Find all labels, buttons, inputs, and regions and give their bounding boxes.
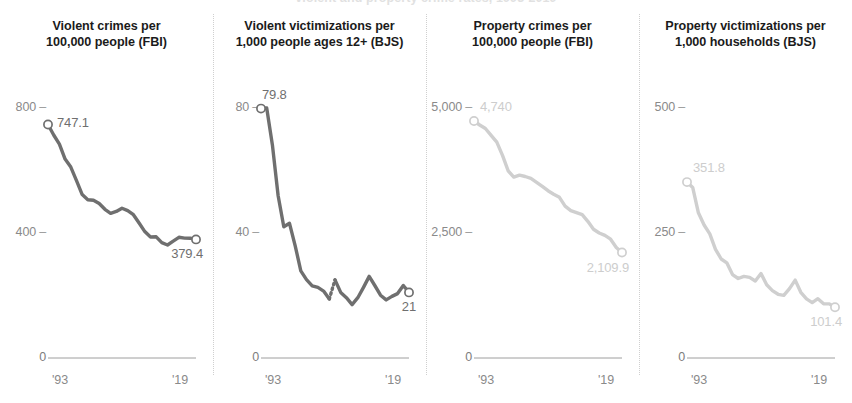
x-axis-tick-start: '93 — [478, 373, 494, 387]
start-point-marker — [44, 120, 52, 128]
series-line — [474, 121, 622, 253]
start-point-marker — [257, 105, 265, 113]
x-axis-tick-end: '19 — [172, 373, 188, 387]
series-line — [335, 276, 409, 304]
chart-panel-3: Property crimes per100,000 people (FBI)5… — [426, 0, 639, 403]
start-value-label: 747.1 — [57, 115, 89, 130]
chart-panel-2: Violent victimizations per1,000 people a… — [213, 0, 426, 403]
x-axis-tick-end: '19 — [811, 373, 827, 387]
chart-panel-4: Property victimizations per1,000 househo… — [639, 0, 852, 403]
start-point-marker — [470, 117, 478, 125]
end-point-marker — [831, 303, 839, 311]
x-axis-tick-start: '93 — [691, 373, 707, 387]
start-value-label: 351.8 — [693, 160, 725, 175]
end-value-label: 21 — [402, 299, 416, 314]
end-point-marker — [405, 288, 413, 296]
series-line — [261, 108, 329, 299]
small-multiples-chart-group: Violent crimes per100,000 people (FBI)80… — [0, 0, 852, 403]
series-line — [687, 182, 835, 307]
series-line-break-segment — [329, 280, 335, 299]
start-point-marker — [683, 178, 691, 186]
plot-area — [213, 0, 426, 403]
end-value-label: 101.4 — [810, 314, 842, 329]
x-axis-tick-end: '19 — [385, 373, 401, 387]
plot-area — [639, 0, 852, 403]
x-axis-tick-start: '93 — [265, 373, 281, 387]
end-value-label: 379.4 — [171, 246, 203, 261]
x-axis-tick-start: '93 — [52, 373, 68, 387]
start-value-label: 4,740 — [480, 99, 512, 114]
end-point-marker — [618, 248, 626, 256]
plot-area — [0, 0, 213, 403]
x-axis-tick-end: '19 — [598, 373, 614, 387]
start-value-label: 79.8 — [262, 87, 287, 102]
series-line — [48, 125, 196, 246]
end-point-marker — [192, 235, 200, 243]
end-value-label: 2,109.9 — [587, 260, 629, 275]
chart-panel-1: Violent crimes per100,000 people (FBI)80… — [0, 0, 213, 403]
plot-area — [426, 0, 639, 403]
